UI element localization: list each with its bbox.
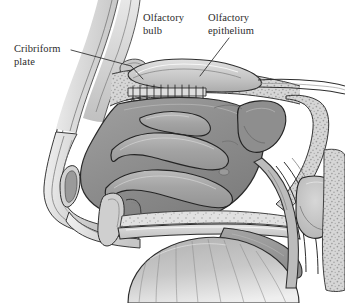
label-olfactory-epithelium: Olfactory epithelium <box>208 12 254 37</box>
olfactory-anatomy-figure: Cribriform plate Olfactory bulb Olfactor… <box>0 0 345 303</box>
label-cribriform-plate: Cribriform plate <box>14 43 61 68</box>
vertebral-column-bone <box>322 149 345 291</box>
label-olfactory-bulb: Olfactory bulb <box>143 12 184 37</box>
